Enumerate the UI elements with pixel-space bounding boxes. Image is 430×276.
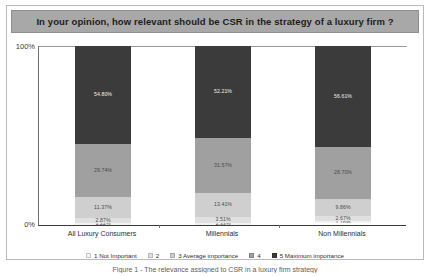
bar-segment-all-luxury-consumers-3[interactable]: 11.37% xyxy=(75,197,131,217)
legend-swatch-icon xyxy=(86,253,91,258)
chart-title: In your opinion, how relevant should be … xyxy=(36,16,393,27)
chart-figure: In your opinion, how relevant should be … xyxy=(0,0,430,276)
bar-segment-non-millennials-5[interactable]: 56.61% xyxy=(315,46,371,147)
x-axis-label-millennials: Millennials xyxy=(162,230,282,237)
bar-segment-value-label: 28.70% xyxy=(334,170,352,175)
legend-label: 4 xyxy=(257,252,260,259)
y-axis-tick-100: 100% xyxy=(16,42,35,51)
bar-segment-all-luxury-consumers-5[interactable]: 54.80% xyxy=(75,46,131,144)
bar-segment-value-label: 29.74% xyxy=(94,168,112,173)
legend-item-4[interactable]: 4 xyxy=(249,252,260,259)
legend-label: 5 Maximum importance xyxy=(280,252,344,259)
bar-segment-non-millennials-4[interactable]: 28.70% xyxy=(315,147,371,198)
plot-wrapper: 100% 0% 54.80%29.74%11.37%2.87%1.22% 52.… xyxy=(38,46,406,226)
bar-segment-value-label: 1.22% xyxy=(95,223,110,225)
bar-segment-value-label: 3.51% xyxy=(215,217,230,222)
bar-segment-value-label: 9.86% xyxy=(335,205,350,210)
x-axis-labels: All Luxury Consumers Millennials Non Mil… xyxy=(38,230,406,242)
legend-label: 1 Not Important xyxy=(94,252,137,259)
bar-segment-value-label: 31.57% xyxy=(214,163,232,168)
y-axis-tick-0: 0% xyxy=(24,220,35,229)
bar-segment-millennials-1[interactable]: 1.33% xyxy=(195,223,251,225)
bar-segment-value-label: 13.41% xyxy=(214,202,232,207)
legend-swatch-icon xyxy=(272,253,277,258)
bar-segment-non-millennials-1[interactable]: 1.16% xyxy=(315,221,371,223)
legend-swatch-icon xyxy=(148,253,153,258)
bar-segment-millennials-4[interactable]: 31.57% xyxy=(195,138,251,193)
legend-label: 2 xyxy=(156,252,159,259)
chart-legend: 1 Not Important23 Average importance45 M… xyxy=(6,249,424,261)
bar-segment-value-label: 52.21% xyxy=(214,89,232,94)
figure-caption: Figure 1 - The relevance assigned to CSR… xyxy=(0,266,430,273)
legend-label: 3 Average importance xyxy=(178,252,238,259)
stacked-bar-non-millennials[interactable]: 56.61%28.70%9.86%2.67%1.16% xyxy=(315,46,371,225)
legend-swatch-icon xyxy=(249,253,254,258)
legend-item-3[interactable]: 3 Average importance xyxy=(170,252,238,259)
bar-segment-value-label: 11.37% xyxy=(94,205,112,210)
legend-item-1[interactable]: 1 Not Important xyxy=(86,252,137,259)
bar-segment-value-label: 54.80% xyxy=(94,92,112,97)
legend-item-2[interactable]: 2 xyxy=(148,252,159,259)
x-axis-label-all-luxury-consumers: All Luxury Consumers xyxy=(42,230,162,237)
chart-title-banner: In your opinion, how relevant should be … xyxy=(11,10,419,33)
bar-segment-value-label: 1.16% xyxy=(335,221,350,223)
bar-segment-millennials-5[interactable]: 52.21% xyxy=(195,46,251,138)
x-axis-tick-1 xyxy=(159,225,160,228)
bar-segment-millennials-3[interactable]: 13.41% xyxy=(195,193,251,217)
bar-segment-non-millennials-3[interactable]: 9.86% xyxy=(315,199,371,217)
stacked-bar-all-luxury-consumers[interactable]: 54.80%29.74%11.37%2.87%1.22% xyxy=(75,46,131,225)
plot-area: 100% 0% 54.80%29.74%11.37%2.87%1.22% 52.… xyxy=(38,46,406,226)
legend-swatch-icon xyxy=(170,253,175,258)
bar-segment-all-luxury-consumers-1[interactable]: 1.22% xyxy=(75,223,131,225)
x-axis-label-non-millennials: Non Millennials xyxy=(282,230,402,237)
bar-segment-value-label: 56.61% xyxy=(334,94,352,99)
stacked-bar-millennials[interactable]: 52.21%31.57%13.41%3.51%1.33% xyxy=(195,46,251,225)
bar-segment-value-label: 1.33% xyxy=(215,223,230,225)
x-axis-tick-2 xyxy=(279,225,280,228)
bar-segment-all-luxury-consumers-4[interactable]: 29.74% xyxy=(75,144,131,197)
legend-item-5[interactable]: 5 Maximum importance xyxy=(272,252,344,259)
